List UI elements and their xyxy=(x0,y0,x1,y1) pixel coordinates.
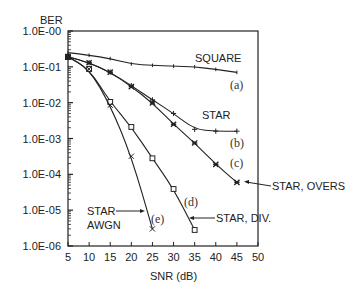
series-label-star-awgn-line1: STAR xyxy=(87,205,116,217)
series-d xyxy=(66,54,197,232)
x-tick-label: 50 xyxy=(252,251,264,263)
x-tick-label: 10 xyxy=(83,251,95,263)
y-tick-label: 1.0E-02 xyxy=(22,97,61,109)
y-tick-label: 1.0E-03 xyxy=(22,133,61,145)
x-tick-label: 35 xyxy=(189,251,201,263)
start-point-marker xyxy=(65,54,71,60)
series-label-star-awgn-line2: AWGN xyxy=(87,219,121,231)
x-axis-ticks: 5101520253035404550 xyxy=(65,242,264,263)
y-axis-title: BER xyxy=(40,14,63,26)
arrowhead-icon xyxy=(140,209,145,213)
x-tick-label: 40 xyxy=(210,251,222,263)
curve-tag-d: (d) xyxy=(184,195,198,209)
curve-tag-b: (b) xyxy=(230,136,244,150)
series-label-star-overs: STAR, OVERS xyxy=(272,180,345,192)
series-label-square: SQUARE xyxy=(195,52,241,64)
y-tick-label: 1.0E-04 xyxy=(22,168,61,180)
y-tick-label: 1.0E-05 xyxy=(22,204,61,216)
x-tick-label: 20 xyxy=(125,251,137,263)
x-tick-label: 30 xyxy=(167,251,179,263)
x-tick-label: 45 xyxy=(231,251,243,263)
y-tick-label: 1.0E-00 xyxy=(22,25,61,37)
y-tick-label: 1.0E-06 xyxy=(22,240,61,252)
y-tick-label: 1.0E-01 xyxy=(22,61,61,73)
curve-tag-a: (a) xyxy=(230,78,243,92)
curve-tag-c: (c) xyxy=(230,156,243,170)
x-tick-label: 15 xyxy=(104,251,116,263)
arrowhead-icon xyxy=(244,180,249,184)
x-tick-label: 25 xyxy=(146,251,158,263)
series-label-star-div: STAR, DIV. xyxy=(216,212,271,224)
series-label-star: STAR xyxy=(202,109,231,121)
x-axis-title: SNR (dB) xyxy=(150,270,197,282)
ber-vs-snr-chart: 1.0E-001.0E-011.0E-021.0E-031.0E-041.0E-… xyxy=(0,0,363,299)
curve-tag-e: (e) xyxy=(151,212,164,226)
x-tick-label: 5 xyxy=(65,251,71,263)
